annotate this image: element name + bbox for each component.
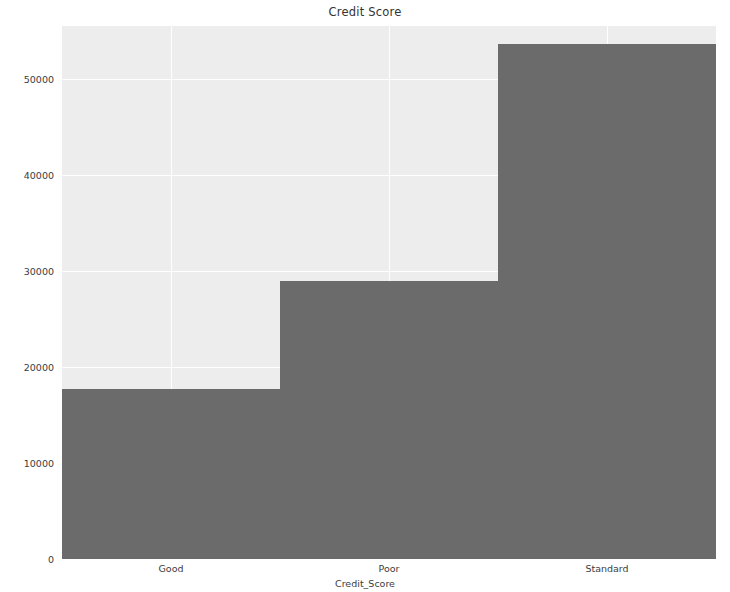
x-axis-label: Credit_Score — [0, 578, 730, 589]
y-tick-label: 30000 — [24, 265, 54, 276]
bar-good — [62, 389, 280, 559]
x-tick-label: Standard — [585, 563, 628, 574]
chart-figure: Credit Score 01000020000300004000050000 … — [0, 0, 730, 592]
x-tick-label: Good — [158, 563, 183, 574]
y-tick-label: 20000 — [24, 361, 54, 372]
chart-title: Credit Score — [0, 5, 730, 19]
y-tick-label: 10000 — [24, 457, 54, 468]
plot-area — [62, 26, 716, 559]
y-axis-tick-labels: 01000020000300004000050000 — [0, 0, 62, 592]
bar-standard — [498, 44, 716, 559]
y-tick-label: 50000 — [24, 73, 54, 84]
bar-poor — [280, 281, 498, 559]
y-tick-label: 0 — [48, 554, 54, 565]
y-tick-label: 40000 — [24, 169, 54, 180]
x-tick-label: Poor — [379, 563, 400, 574]
x-axis-tick-labels: GoodPoorStandard — [62, 563, 716, 579]
